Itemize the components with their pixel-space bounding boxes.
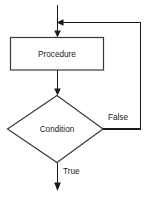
false-branch-label: False	[108, 113, 128, 122]
procedure-to-condition-arrowhead-icon	[54, 89, 61, 96]
condition-label: Condition	[40, 125, 75, 134]
true-branch-edge: True	[54, 163, 80, 192]
flowchart-svg: Procedure Condition False True	[0, 0, 150, 198]
flowchart-canvas: Procedure Condition False True	[0, 0, 150, 198]
entry-arrowhead-icon	[54, 31, 61, 38]
node-procedure[interactable]: Procedure	[11, 38, 104, 71]
procedure-label: Procedure	[38, 50, 76, 59]
node-condition[interactable]: Condition	[8, 96, 104, 163]
false-branch-edge: False	[103, 113, 141, 129]
true-branch-label: True	[63, 167, 80, 176]
procedure-to-condition-arrow	[54, 70, 61, 96]
true-branch-arrowhead-icon	[54, 183, 61, 192]
